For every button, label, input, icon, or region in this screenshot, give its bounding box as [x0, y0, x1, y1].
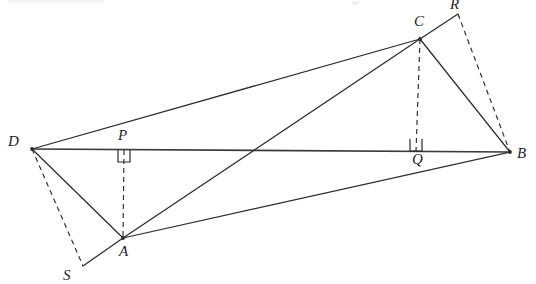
vertex-dot-D [30, 147, 34, 151]
solid-segments-layer [32, 14, 510, 266]
point-label-P: P [118, 128, 127, 143]
vertex-dot-B [508, 150, 512, 154]
vertex-dot-C [418, 37, 422, 41]
vertex-dot-A [121, 236, 125, 240]
segment-D-S [32, 149, 83, 266]
point-label-B: B [517, 146, 526, 161]
segment-A-B [123, 152, 510, 238]
segment-D-C [32, 39, 420, 149]
segment-C-R [420, 14, 458, 39]
segment-P-A [123, 150, 124, 238]
point-label-A: A [119, 244, 128, 259]
point-label-Q: Q [412, 152, 423, 167]
geometry-figure: A B C D P Q R S [0, 0, 536, 284]
segment-R-B [458, 14, 510, 152]
segment-D-A [32, 149, 123, 238]
point-label-S: S [63, 268, 71, 283]
figure-canvas [0, 0, 536, 284]
segment-C-Q [416, 39, 420, 151]
dashed-segments-layer [32, 14, 510, 266]
point-label-R: R [450, 0, 459, 12]
segment-C-B [420, 39, 510, 152]
segment-A-S [83, 238, 123, 266]
segment-D-B [32, 149, 510, 152]
point-label-C: C [414, 14, 424, 29]
point-label-D: D [8, 134, 19, 149]
segment-A-C [123, 39, 420, 238]
